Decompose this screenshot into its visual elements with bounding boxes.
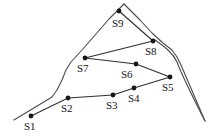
sensor-node-s1[interactable] — [29, 114, 34, 119]
sensor-node-s9[interactable] — [117, 9, 122, 14]
sensor-edge-group — [31, 11, 170, 116]
sensor-node-s5[interactable] — [168, 75, 173, 80]
sensor-label-s5: S5 — [162, 82, 174, 93]
sensor-node-s6[interactable] — [134, 62, 139, 67]
sensor-node-s8[interactable] — [151, 39, 156, 44]
sensor-label-s6: S6 — [121, 69, 133, 80]
sensor-node-s2[interactable] — [66, 96, 71, 101]
sensor-node-s7[interactable] — [83, 56, 88, 61]
sensor-edge-s7-s8 — [85, 41, 153, 58]
diagram-canvas — [0, 0, 212, 137]
sensor-edge-s2-s3 — [68, 95, 113, 98]
sensor-node-s3[interactable] — [111, 93, 116, 98]
sensor-label-s4: S4 — [128, 93, 140, 104]
sensor-node-s4[interactable] — [132, 86, 137, 91]
sensor-label-s9: S9 — [112, 18, 124, 29]
sensor-label-s7: S7 — [77, 63, 89, 74]
terrain-diagram: S1S2S3S4S5S6S7S8S9 — [0, 0, 212, 137]
sensor-label-s3: S3 — [106, 100, 118, 111]
sensor-edge-s5-s6 — [136, 64, 170, 77]
sensor-edge-s6-s7 — [85, 58, 136, 64]
sensor-label-s1: S1 — [24, 121, 36, 132]
sensor-label-s2: S2 — [61, 103, 73, 114]
sensor-label-s8: S8 — [145, 46, 157, 57]
sensor-node-group — [29, 9, 173, 119]
